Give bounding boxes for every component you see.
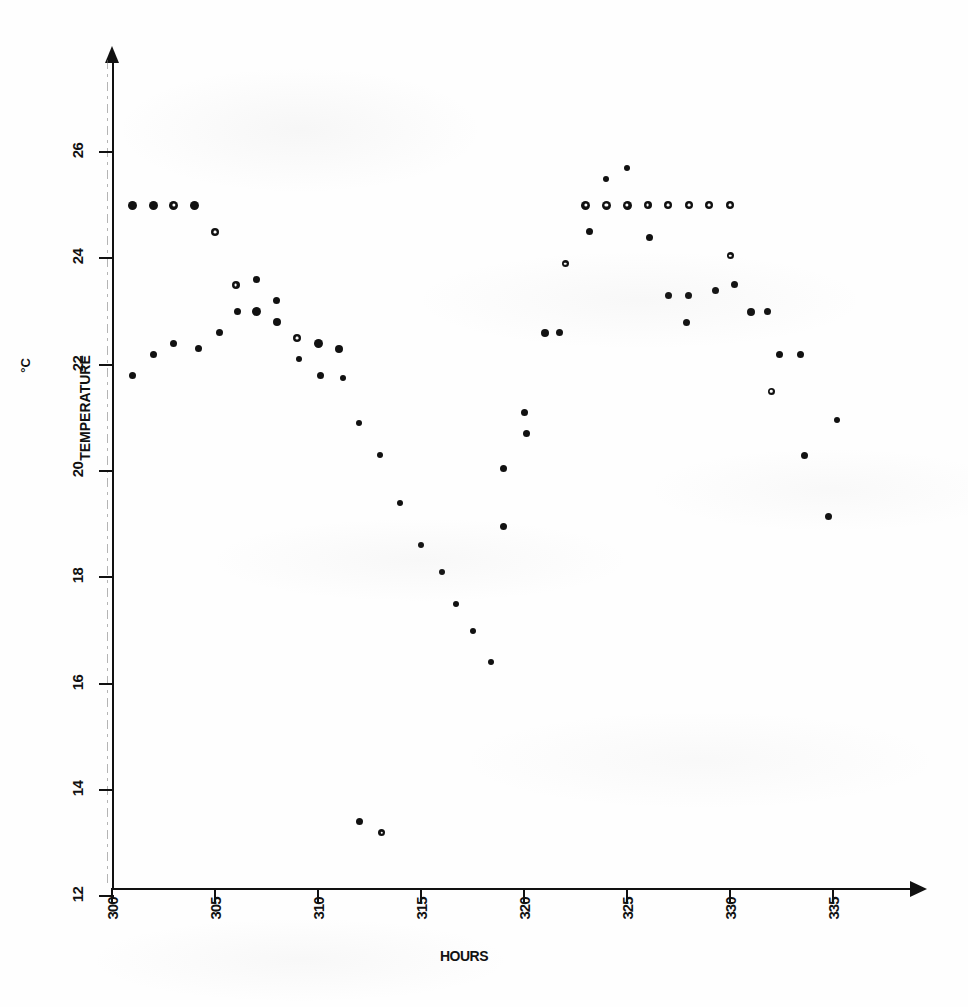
data-point	[685, 201, 693, 209]
data-point	[340, 375, 346, 381]
x-tick-label-335: 335	[825, 887, 842, 931]
y-axis-unit-label: °C	[18, 358, 33, 373]
x-tick-label-300: 300	[104, 887, 121, 931]
data-point	[556, 329, 563, 336]
data-point	[797, 351, 804, 358]
data-point	[169, 201, 178, 210]
data-point	[170, 340, 177, 347]
data-point	[801, 452, 808, 459]
data-point	[776, 351, 783, 358]
data-point	[253, 276, 260, 283]
data-point	[273, 297, 280, 304]
y-axis-line	[112, 58, 114, 890]
data-point	[834, 417, 840, 423]
y-tick-14	[99, 789, 114, 791]
y-tick-16	[99, 683, 114, 685]
data-point	[500, 465, 507, 472]
data-point	[768, 388, 775, 395]
y-tick-18	[99, 576, 114, 578]
x-tick-label-325: 325	[619, 887, 636, 931]
x-tick-label-310: 310	[310, 887, 327, 931]
data-point	[232, 281, 240, 289]
data-point	[562, 260, 569, 267]
x-tick-label-305: 305	[207, 887, 224, 931]
data-point	[500, 523, 507, 530]
data-point	[129, 372, 136, 379]
x-axis-arrow-icon	[910, 881, 927, 897]
y-tick-20	[99, 470, 114, 472]
data-point	[665, 292, 672, 299]
y-tick-label-26: 26	[69, 136, 86, 166]
data-point	[216, 329, 223, 336]
data-point	[603, 176, 609, 182]
data-point	[234, 308, 241, 315]
data-point	[335, 345, 343, 353]
y-tick-label-24: 24	[69, 242, 86, 272]
y-axis-title: TEMPERATURE	[77, 318, 93, 498]
data-point	[664, 201, 672, 209]
data-point	[128, 201, 137, 210]
data-point	[644, 201, 652, 209]
data-point	[623, 201, 632, 210]
scatter-plot-figure: 1214161820222426 30030531031532032533033…	[0, 0, 968, 1007]
data-point	[317, 372, 324, 379]
y-tick-26	[99, 151, 114, 153]
data-point	[764, 308, 771, 315]
data-point	[377, 452, 383, 458]
data-point	[293, 334, 301, 342]
data-point	[439, 569, 445, 575]
data-point	[488, 659, 494, 665]
x-axis-title: HOURS	[440, 948, 488, 964]
data-point	[586, 228, 593, 235]
data-point	[397, 500, 403, 506]
data-point	[705, 201, 713, 209]
data-point	[273, 318, 281, 326]
y-tick-label-14: 14	[69, 774, 86, 804]
data-point	[646, 234, 653, 241]
data-point	[602, 201, 611, 210]
data-point	[356, 420, 362, 426]
data-point	[150, 351, 157, 358]
data-point	[727, 252, 734, 259]
y-tick-label-18: 18	[69, 561, 86, 591]
x-tick-label-320: 320	[516, 887, 533, 931]
data-point	[252, 307, 261, 316]
data-point	[825, 513, 832, 520]
data-point	[195, 345, 202, 352]
data-point	[726, 201, 734, 209]
data-point	[685, 292, 692, 299]
data-point	[190, 201, 199, 210]
data-point	[747, 308, 755, 316]
y-tick-22	[99, 364, 114, 366]
x-tick-label-330: 330	[722, 887, 739, 931]
data-point	[541, 329, 549, 337]
y-tick-label-12: 12	[69, 880, 86, 910]
data-point	[523, 430, 530, 437]
data-point	[314, 339, 323, 348]
x-tick-label-315: 315	[413, 887, 430, 931]
data-point	[296, 356, 302, 362]
data-point	[624, 165, 630, 171]
data-point	[683, 319, 690, 326]
data-point	[356, 818, 363, 825]
data-point	[470, 628, 476, 634]
data-point	[581, 201, 590, 210]
y-tick-label-16: 16	[69, 667, 86, 697]
data-point	[211, 228, 219, 236]
data-point	[453, 601, 459, 607]
data-point	[521, 409, 528, 416]
y-tick-24	[99, 257, 114, 259]
data-point	[418, 542, 424, 548]
data-point	[149, 201, 158, 210]
data-point	[378, 829, 385, 836]
data-point	[712, 287, 719, 294]
data-point	[731, 281, 738, 288]
register-dash-dot-line	[107, 60, 108, 888]
